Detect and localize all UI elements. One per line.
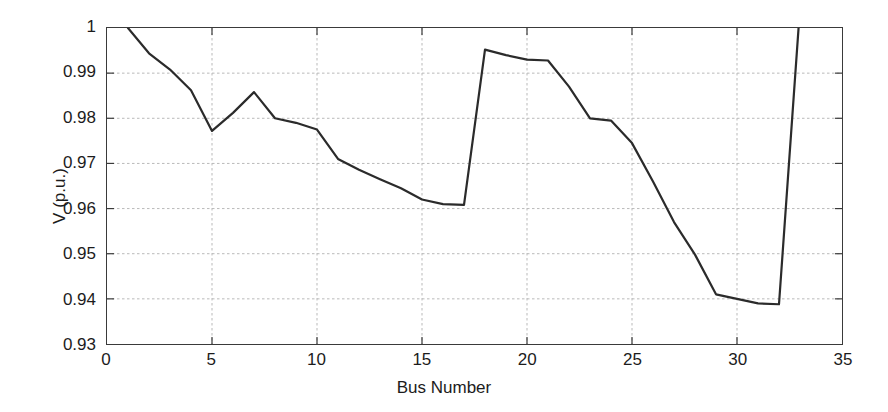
x-axis-tick-label: 10 <box>307 350 326 370</box>
y-axis-tick-label: 0.99 <box>4 62 96 82</box>
y-axis-tick-label: 0.94 <box>4 290 96 310</box>
voltage-profile-figure: 0.930.940.950.960.970.980.991 0510152025… <box>0 0 888 412</box>
x-axis-tick-label: 5 <box>207 350 216 370</box>
y-axis-tick-label: 0.93 <box>4 335 96 355</box>
y-axis-title: V (p.u.) <box>50 116 70 276</box>
data-line-layer <box>107 28 842 344</box>
x-axis-tick-label: 25 <box>623 350 642 370</box>
x-axis-tick-label: 30 <box>728 350 747 370</box>
x-axis-title: Bus Number <box>0 378 888 398</box>
voltage-series-line <box>128 28 800 304</box>
x-axis-tick-label: 35 <box>834 350 853 370</box>
plot-area <box>106 27 843 345</box>
x-axis-tick-label: 15 <box>412 350 431 370</box>
x-axis-tick-label: 20 <box>518 350 537 370</box>
x-axis-tick-label: 0 <box>101 350 110 370</box>
y-axis-tick-label: 1 <box>4 17 96 37</box>
